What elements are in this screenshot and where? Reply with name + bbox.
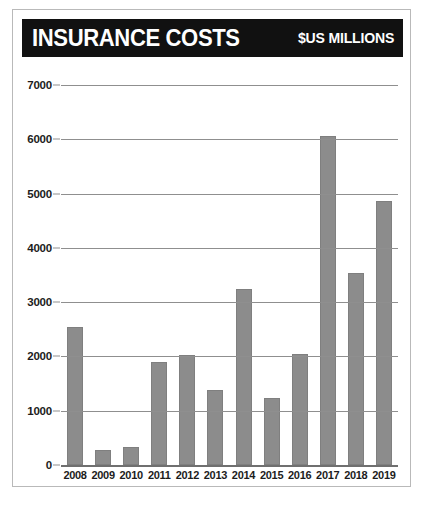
bar-slot	[117, 85, 145, 465]
y-tick-label: 6000	[27, 133, 52, 145]
x-tick-label: 2012	[173, 469, 201, 481]
x-tick-label: 2019	[370, 469, 398, 481]
y-tick-mark	[53, 410, 60, 411]
chart-figure: INSURANCE COSTS $US MILLIONS 01000200030…	[12, 9, 411, 487]
bar	[236, 289, 252, 465]
x-tick-label: 2009	[89, 469, 117, 481]
bar	[376, 201, 392, 465]
gridline	[61, 139, 398, 140]
y-tick-label: 5000	[27, 188, 52, 200]
bar	[292, 354, 308, 465]
y-tick-label: 3000	[27, 296, 52, 308]
gridline	[61, 85, 398, 86]
bar-series	[61, 85, 398, 465]
chart-header: INSURANCE COSTS $US MILLIONS	[22, 19, 403, 57]
bar	[151, 362, 167, 465]
gridline	[61, 356, 398, 357]
x-tick-label: 2016	[286, 469, 314, 481]
x-tick-label: 2014	[229, 469, 257, 481]
y-tick-label: 1000	[27, 405, 52, 417]
plot-wrapper: 01000200030004000500060007000 2008200920…	[13, 57, 410, 486]
bar-slot	[89, 85, 117, 465]
bar-slot	[286, 85, 314, 465]
bar	[320, 136, 336, 465]
y-tick-label: 7000	[27, 79, 52, 91]
y-tick-label: 4000	[27, 242, 52, 254]
x-tick-label: 2018	[342, 469, 370, 481]
bar-slot	[258, 85, 286, 465]
gridline	[61, 248, 398, 249]
chart-units-label: $US MILLIONS	[298, 31, 394, 46]
x-tick-label: 2015	[258, 469, 286, 481]
x-tick-label: 2017	[314, 469, 342, 481]
x-tick-label: 2010	[117, 469, 145, 481]
y-tick-mark	[53, 465, 60, 466]
bar-slot	[201, 85, 229, 465]
bar-slot	[229, 85, 257, 465]
bar-slot	[370, 85, 398, 465]
x-tick-label: 2013	[201, 469, 229, 481]
bar	[123, 447, 139, 465]
y-tick-label: 2000	[27, 350, 52, 362]
gridline	[61, 194, 398, 195]
x-tick-label: 2011	[145, 469, 173, 481]
y-tick-label: 0	[46, 459, 52, 471]
x-axis-labels: 2008200920102011201220132014201520162017…	[61, 469, 398, 481]
bar	[95, 450, 111, 465]
gridline	[61, 465, 398, 467]
y-tick-mark	[53, 85, 60, 86]
y-tick-mark	[53, 356, 60, 357]
bar	[264, 398, 280, 465]
bar-slot	[342, 85, 370, 465]
y-tick-mark	[53, 139, 60, 140]
y-tick-mark	[53, 193, 60, 194]
y-tick-mark	[53, 302, 60, 303]
bar-slot	[314, 85, 342, 465]
gridline	[61, 411, 398, 412]
bar-slot	[173, 85, 201, 465]
chart-title: INSURANCE COSTS	[32, 27, 240, 50]
bar	[67, 327, 83, 465]
plot-area: 01000200030004000500060007000	[61, 85, 398, 465]
bar-slot	[145, 85, 173, 465]
x-tick-label: 2008	[61, 469, 89, 481]
bar-slot	[61, 85, 89, 465]
bar	[207, 390, 223, 465]
gridline	[61, 302, 398, 303]
y-tick-mark	[53, 247, 60, 248]
